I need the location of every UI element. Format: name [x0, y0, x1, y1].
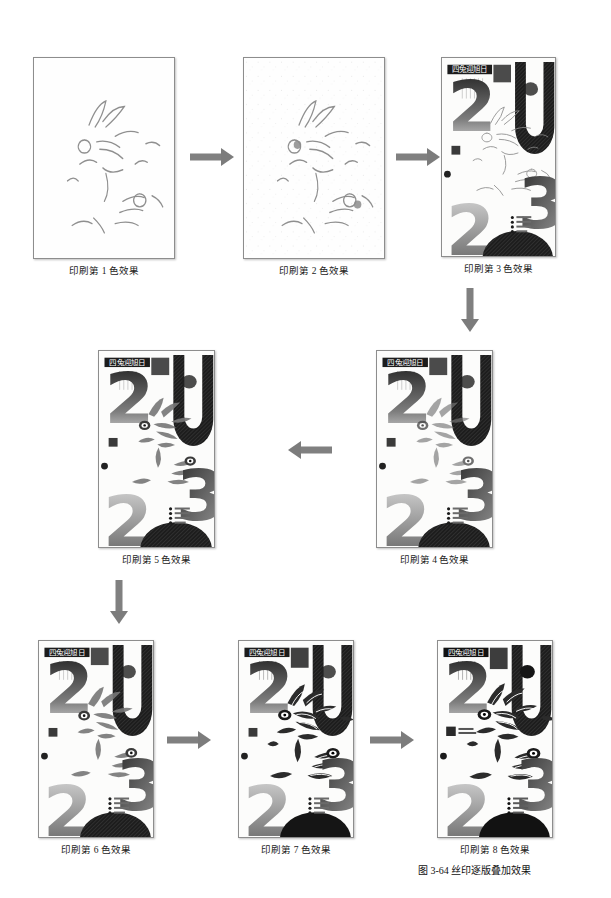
caption-step-8: 印刷第 8 色效果 [437, 842, 553, 856]
poster-panel-step-5[interactable]: 四兔迎旭日 2 3 2 [98, 350, 215, 548]
caption-step-4: 印刷第 4 色效果 [376, 552, 493, 566]
poster-svg-4: 四兔迎旭日 2 3 2 [377, 351, 492, 547]
arrow-step-6-to-7 [167, 731, 211, 749]
poster-artwork-step-8: 四兔迎旭日 2 3 2 [438, 641, 552, 837]
poster-artwork-step-6: 四兔迎旭日 2 3 2 [39, 641, 153, 837]
poster-panel-step-4[interactable]: 四兔迎旭日 2 3 2 [376, 350, 493, 548]
poster-artwork-step-2 [244, 58, 384, 258]
arrow-step-7-to-8 [370, 731, 414, 749]
caption-step-2: 印刷第 2 色效果 [243, 263, 385, 277]
caption-step-3: 印刷第 3 色效果 [441, 261, 556, 275]
caption-step-5: 印刷第 5 色效果 [98, 552, 215, 566]
poster-artwork-step-3: 四兔迎旭日 2 3 2 [442, 58, 555, 256]
poster-panel-step-2[interactable] [243, 57, 385, 259]
caption-step-6: 印刷第 6 色效果 [38, 842, 154, 856]
poster-svg-2 [244, 58, 384, 258]
poster-svg-1 [34, 58, 174, 258]
poster-panel-step-6[interactable]: 四兔迎旭日 2 3 2 [38, 640, 154, 838]
arrow-step-1-to-2 [190, 148, 234, 166]
arrow-step-4-to-5 [288, 441, 332, 459]
arrow-step-3-to-4 [461, 288, 479, 332]
poster-svg-6: 四兔迎旭日 2 3 2 [39, 641, 153, 837]
poster-panel-step-3[interactable]: 四兔迎旭日 2 3 2 [441, 57, 556, 257]
figure-canvas: 印刷第 1 色效果 印刷第 2 色效果 [0, 0, 611, 898]
poster-panel-step-8[interactable]: 四兔迎旭日 2 3 2 [437, 640, 553, 838]
poster-svg-3: 四兔迎旭日 2 3 2 [442, 58, 555, 256]
svg-text:2: 2 [447, 66, 496, 148]
poster-artwork-step-1 [34, 58, 174, 258]
poster-svg-8: 四兔迎旭日 2 3 2 [438, 641, 552, 837]
poster-panel-step-1[interactable] [33, 57, 175, 259]
poster-svg-7: 四兔迎旭日 2 3 2 [239, 641, 353, 837]
poster-panel-step-7[interactable]: 四兔迎旭日 2 3 2 [238, 640, 354, 838]
poster-artwork-step-7: 四兔迎旭日 2 3 2 [239, 641, 353, 837]
caption-step-1: 印刷第 1 色效果 [33, 263, 175, 277]
poster-svg-5: 四兔迎旭日 2 3 2 [99, 351, 214, 547]
figure-caption: 图 3-64 丝印逐版叠加效果 [418, 862, 531, 877]
arrow-step-2-to-3 [396, 148, 440, 166]
caption-step-7: 印刷第 7 色效果 [238, 842, 354, 856]
poster-artwork-step-4: 四兔迎旭日 2 3 2 [377, 351, 492, 547]
arrow-step-5-to-6 [110, 580, 128, 624]
poster-artwork-step-5: 四兔迎旭日 2 3 2 [99, 351, 214, 547]
